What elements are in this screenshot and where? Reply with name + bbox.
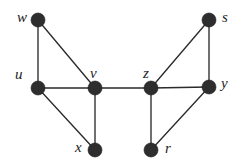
graph-node-z	[144, 81, 158, 95]
graph-node-label-v: v	[90, 66, 97, 81]
graph-edge-z-y	[151, 87, 209, 88]
graph-node-label-s: s	[222, 10, 228, 25]
graph-node-label-y: y	[221, 76, 228, 91]
graph-node-label-z: z	[143, 66, 149, 81]
graph-diagram-canvas: wsuvzyxr	[0, 0, 245, 166]
graph-node-label-u: u	[15, 67, 23, 82]
graph-edge-u-x	[38, 88, 95, 150]
graph-edge-z-s	[151, 20, 209, 88]
graph-node-label-r: r	[165, 141, 171, 156]
graph-node-u	[31, 81, 45, 95]
graph-node-v	[88, 81, 102, 95]
graph-node-s	[202, 13, 216, 27]
graph-edge-w-v	[38, 20, 95, 88]
graph-node-r	[144, 143, 158, 157]
graph-node-label-x: x	[75, 140, 82, 155]
graph-node-label-w: w	[17, 10, 27, 25]
graph-svg	[0, 0, 245, 166]
node-layer	[31, 13, 216, 157]
graph-node-w	[31, 13, 45, 27]
graph-node-y	[202, 80, 216, 94]
edge-layer	[38, 20, 209, 150]
graph-edge-r-y	[151, 87, 209, 150]
graph-node-x	[88, 143, 102, 157]
